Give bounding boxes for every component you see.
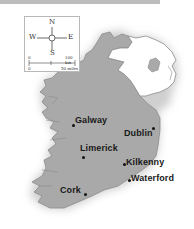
city-label-dublin: Dublin bbox=[124, 128, 153, 138]
city-label-waterford: Waterford bbox=[131, 173, 174, 183]
city-dot-limerick bbox=[82, 156, 85, 159]
city-dot-cork bbox=[84, 193, 87, 196]
scale-miles-end: 50 miles bbox=[61, 66, 78, 71]
scale-km-start: 0 bbox=[28, 55, 31, 60]
scale-miles-start: 0 bbox=[28, 66, 31, 71]
compass-rose: N S E W 0 100 km 0 50 miles bbox=[24, 16, 80, 72]
city-label-limerick: Limerick bbox=[80, 143, 118, 153]
city-label-galway: Galway bbox=[75, 115, 107, 125]
city-label-cork: Cork bbox=[60, 185, 81, 195]
lough-neagh bbox=[148, 58, 160, 72]
city-label-kilkenny: Kilkenny bbox=[126, 157, 164, 167]
scale-km-end: 100 km bbox=[65, 55, 79, 65]
